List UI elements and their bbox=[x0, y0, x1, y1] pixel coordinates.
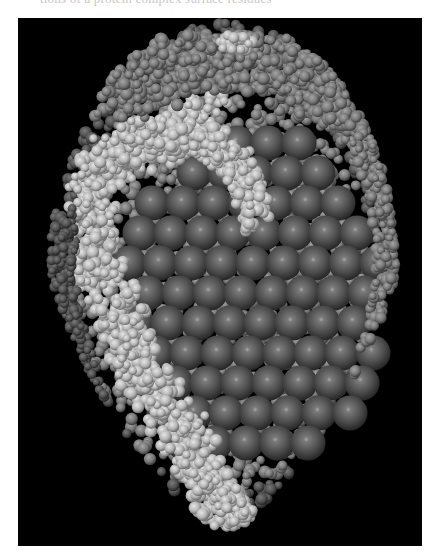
molecule-rendering bbox=[18, 18, 422, 546]
cut-off-caption-text: tions of a protein complex surface resid… bbox=[40, 0, 420, 7]
molecular-model-figure bbox=[18, 18, 422, 546]
